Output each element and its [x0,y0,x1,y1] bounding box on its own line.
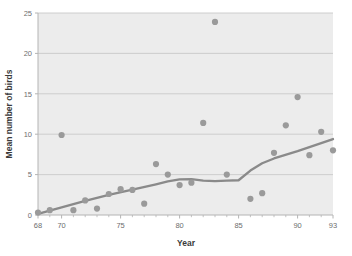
y-axis-title: Mean number of birds [4,69,14,158]
data-point [70,207,76,213]
y-tick-label: 20 [24,49,32,58]
data-point [35,209,41,215]
data-point [141,201,147,207]
data-point [188,180,194,186]
y-tick-label: 10 [24,130,32,139]
data-point [59,132,65,138]
data-point [153,161,159,167]
data-point [212,19,218,25]
data-point [224,172,230,178]
plot-area-background [38,13,333,215]
data-point [306,152,312,158]
y-tick-label: 0 [28,211,32,220]
data-point [295,94,301,100]
y-axis-ticks: 0510152025 [24,9,38,220]
data-point [165,172,171,178]
data-point [200,120,206,126]
y-tick-label: 15 [24,90,32,99]
data-point [47,207,53,213]
data-point [106,191,112,197]
x-tick-label: 80 [175,221,183,230]
data-point [129,187,135,193]
x-tick-label: 93 [329,221,337,230]
x-axis-ticks: 68707580859093 [34,215,337,230]
data-point [94,205,100,211]
x-axis-title: Year [177,238,196,248]
data-point [283,122,289,128]
data-point [177,182,183,188]
data-point [330,147,336,153]
scatter-plot: 0510152025 68707580859093 Year Mean numb… [0,0,352,256]
data-point [318,129,324,135]
y-tick-label: 25 [24,9,32,18]
data-point [271,150,277,156]
x-tick-label: 85 [234,221,242,230]
data-point [118,186,124,192]
x-tick-label: 70 [57,221,65,230]
x-tick-label: 68 [34,221,42,230]
data-point [82,197,88,203]
x-tick-label: 90 [293,221,301,230]
x-tick-label: 75 [116,221,124,230]
data-point [259,190,265,196]
data-point [247,196,253,202]
y-tick-label: 5 [28,170,32,179]
chart-container: 0510152025 68707580859093 Year Mean numb… [0,0,352,256]
